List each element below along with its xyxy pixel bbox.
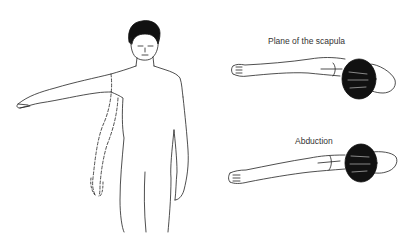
head-top-dark	[345, 144, 377, 182]
label-abduction: Abduction	[295, 136, 333, 146]
label-plane-of-scapula: Plane of the scapula	[268, 36, 345, 46]
head-top-dark	[342, 59, 376, 99]
scapular-plane-arm	[232, 58, 396, 100]
abduction-arm	[229, 144, 397, 184]
hair-icon	[129, 21, 160, 44]
standing-man	[17, 21, 188, 232]
front-view-figure	[0, 0, 409, 244]
